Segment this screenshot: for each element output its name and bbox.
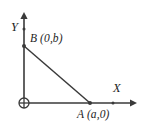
x-axis-tick-dot bbox=[112, 102, 115, 105]
y-axis-label: Y bbox=[11, 21, 18, 34]
coordinate-triangle-figure: Y X B (0,b) A (a,0) bbox=[0, 0, 143, 130]
point-b-marker bbox=[22, 44, 26, 48]
point-a-label: A (a,0) bbox=[77, 109, 109, 121]
x-axis-arrowhead bbox=[130, 99, 137, 106]
y-axis-tick-dot bbox=[23, 28, 26, 31]
hypotenuse-segment bbox=[24, 46, 90, 103]
figure-canvas bbox=[0, 0, 143, 130]
point-a-marker bbox=[88, 101, 92, 105]
point-b-label: B (0,b) bbox=[30, 33, 63, 45]
origin-marker bbox=[19, 98, 29, 108]
y-axis-arrowhead bbox=[20, 12, 27, 19]
y-axis bbox=[20, 12, 27, 103]
x-axis-label: X bbox=[113, 82, 121, 95]
x-axis bbox=[24, 99, 137, 106]
